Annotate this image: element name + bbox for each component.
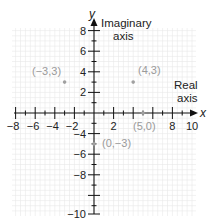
point-4-3: [131, 80, 135, 84]
y-variable-label: y: [88, 7, 96, 21]
axes: [14, 25, 191, 214]
point-label: (0,−3): [102, 137, 131, 149]
x-tick-label: −4: [46, 120, 59, 132]
imaginary-axis-title: Imaginary: [101, 17, 152, 29]
point-label: (4,3): [138, 64, 161, 76]
x-variable-label: x: [199, 106, 207, 120]
y-tick-label: −6: [73, 148, 86, 160]
x-tick-labels: −8 −6 −4 −2 2 8 10: [7, 120, 198, 132]
point-neg3-3: [63, 80, 67, 84]
x-tick-label: −6: [27, 120, 40, 132]
real-axis-title: axis: [177, 92, 198, 104]
y-tick-label: 6: [80, 45, 86, 57]
point-label: (5,0): [133, 120, 156, 132]
x-tick-label: 2: [111, 120, 117, 132]
imaginary-axis-title: axis: [113, 30, 134, 42]
x-axis-arrow-icon: [190, 110, 198, 117]
complex-plane-chart: −8 −6 −4 −2 2 8 10 8 6 4 2 −4 −6 −8 −10 …: [0, 0, 210, 220]
y-tick-label: 4: [80, 66, 86, 78]
x-tick-label: 8: [169, 120, 175, 132]
y-tick-label: 2: [80, 86, 86, 98]
real-axis-title: Real: [174, 79, 198, 91]
point-label: (−3,3): [32, 65, 61, 77]
y-tick-label: −8: [73, 169, 86, 181]
x-tick-label: −8: [7, 120, 20, 132]
point-0-neg3: [92, 142, 96, 146]
y-tick-label: −10: [67, 208, 86, 220]
y-tick-label: 8: [80, 25, 86, 37]
y-tick-label: −4: [73, 128, 86, 140]
x-tick-label: 10: [186, 120, 198, 132]
point-5-0: [141, 111, 145, 115]
